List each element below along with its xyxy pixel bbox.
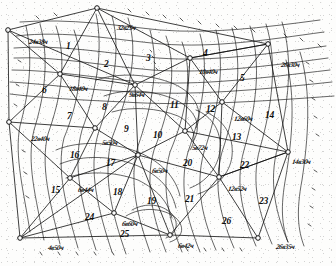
station-label: 22в40ч (30, 135, 50, 143)
station-node (112, 211, 117, 216)
region-number: 4 (203, 48, 207, 58)
region-number: 21 (185, 194, 194, 204)
region-number: 5 (240, 73, 244, 83)
station-label: 32в25ч (116, 24, 136, 32)
station-label: 6в44ч (77, 186, 94, 194)
region-number: 9 (124, 124, 128, 134)
station-label: 14в30ч (291, 158, 311, 166)
station-label: 9в64ч (128, 91, 145, 99)
station-node (68, 176, 73, 181)
region-number: 3 (146, 53, 150, 63)
station-label: 5в72ч (191, 144, 208, 152)
station-label: 6в42ч (177, 242, 194, 250)
region-number: 13 (232, 132, 241, 142)
station-node (188, 56, 193, 61)
region-number: 26 (222, 216, 231, 226)
station-node (58, 72, 63, 77)
station-label: 12в60ч (233, 115, 253, 123)
triangulation-network-figure: 1234567891011121314151617181920212223242… (0, 0, 336, 266)
region-number: 23 (259, 196, 268, 206)
station-node (18, 236, 23, 241)
station-node (168, 233, 173, 238)
station-node (183, 129, 188, 134)
region-number: 25 (120, 229, 129, 239)
station-node (133, 83, 138, 88)
station-node (256, 236, 261, 241)
region-number: 19 (147, 196, 156, 206)
contour-curves (10, 14, 334, 254)
station-label: 18в40ч (68, 85, 88, 93)
station-label: 6в60ч (121, 220, 138, 228)
station-node (7, 120, 12, 125)
station-node (95, 6, 100, 11)
station-node (6, 28, 11, 33)
region-number: 12 (206, 104, 215, 114)
region-number: 15 (51, 185, 60, 195)
station-node (93, 126, 98, 131)
region-number: 6 (42, 85, 46, 95)
station-label: 5в50ч (101, 139, 118, 147)
region-number: 24 (85, 212, 94, 222)
station-node (266, 42, 271, 47)
station-node (217, 175, 222, 180)
region-number: 1 (66, 41, 70, 51)
station-node (136, 153, 141, 158)
region-number: 11 (170, 100, 178, 110)
region-number: 22 (240, 160, 249, 170)
region-number: 20 (183, 158, 192, 168)
station-label: 12в52ч (227, 185, 247, 193)
station-label: 26в35ч (275, 243, 295, 251)
station-label: 4в50ч (47, 244, 64, 252)
station-node (220, 100, 225, 105)
station-node (286, 150, 291, 155)
region-number: 7 (67, 111, 71, 121)
region-number: 10 (153, 130, 162, 140)
region-number: 2 (104, 59, 108, 69)
region-number: 16 (70, 150, 79, 160)
station-label: 6в50ч (151, 167, 168, 175)
region-number: 18 (113, 187, 122, 197)
station-label: 10в40ч (198, 68, 218, 76)
region-number: 14 (265, 110, 274, 120)
station-label: 26в30ч (280, 61, 300, 69)
region-number: 17 (106, 158, 115, 168)
network-drawing (0, 0, 336, 266)
region-number: 8 (102, 102, 106, 112)
station-label: 24в38ч (28, 38, 48, 46)
